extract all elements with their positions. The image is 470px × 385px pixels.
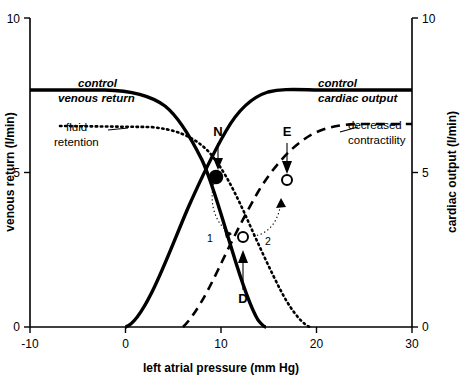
- label-control-vr-line2: venous return: [58, 92, 135, 104]
- curve-fluid-retention: [60, 126, 310, 327]
- chart-canvas: -10 0 10 20 30 0 5 10 0 5 10 left atrial…: [0, 0, 470, 385]
- label-control-co-line1: control: [318, 77, 358, 89]
- x-tick-label-0: -10: [21, 337, 39, 351]
- y-tick-marks-left: [24, 18, 30, 327]
- y-tick-label-left-2: 10: [7, 12, 21, 26]
- arrowhead-d: [238, 250, 248, 263]
- x-tick-label-3: 20: [310, 337, 324, 351]
- leader-fluid-retention: [108, 128, 128, 130]
- x-tick-label-2: 10: [214, 337, 228, 351]
- arrowhead-d-to-e: [276, 198, 286, 208]
- y-tick-label-left-0: 0: [13, 320, 20, 334]
- label-decreased-line2: contractility: [348, 134, 406, 146]
- label-point-n: N: [213, 124, 222, 139]
- y-tick-label-right-0: 0: [422, 320, 429, 334]
- path-arc-d-to-e: [253, 200, 281, 236]
- arrowhead-n-to-d: [224, 229, 232, 238]
- label-control-co-line2: cardiac output: [318, 92, 398, 104]
- label-point-d: D: [238, 291, 247, 306]
- point-marker-d: [238, 232, 248, 242]
- label-point-e: E: [283, 124, 292, 139]
- label-step-1: 1: [207, 232, 213, 244]
- curve-decreased-contractility: [183, 124, 412, 327]
- path-arc-n-to-d: [212, 180, 232, 234]
- arrowhead-e: [282, 161, 292, 174]
- point-marker-e: [282, 175, 292, 185]
- point-marker-n: [210, 171, 223, 184]
- label-step-2: 2: [265, 235, 271, 247]
- label-fluid-line1: fluid: [66, 121, 87, 133]
- y-axis-title-right: cardiac output (l/min): [445, 111, 459, 233]
- label-decreased-line1: decreased: [348, 119, 402, 131]
- y-tick-label-right-2: 10: [422, 12, 436, 26]
- physiology-chart: -10 0 10 20 30 0 5 10 0 5 10 left atrial…: [0, 0, 470, 385]
- y-tick-label-right-1: 5: [422, 166, 429, 180]
- x-tick-label-4: 30: [405, 337, 419, 351]
- label-fluid-line2: retention: [54, 136, 99, 148]
- y-axis-title-left: venous return (l/min): [3, 112, 17, 231]
- x-tick-label-1: 0: [122, 337, 129, 351]
- x-axis-title: left atrial pressure (mm Hg): [143, 361, 299, 375]
- label-control-vr-line1: control: [78, 77, 118, 89]
- x-tick-marks: [30, 327, 412, 333]
- y-tick-marks-right: [412, 18, 418, 327]
- arrowhead-n: [213, 158, 223, 170]
